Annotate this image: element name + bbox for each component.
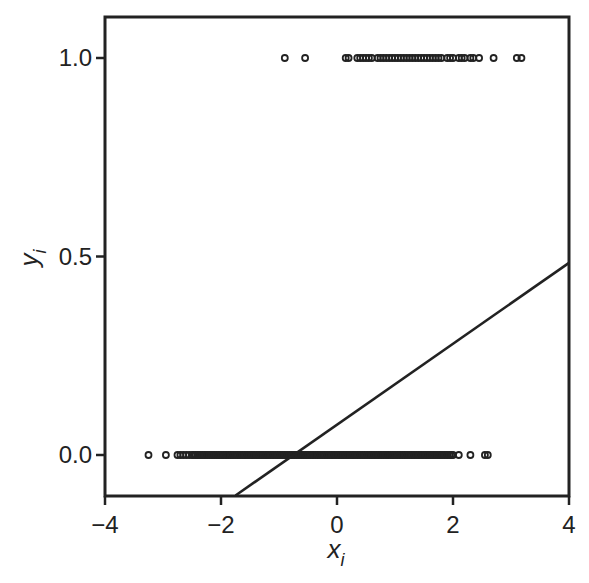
x-tick-label: 4 [562,511,575,538]
y-tick-label: 0.0 [59,441,92,468]
scatter-chart: −4−2024 0.00.51.0 xi yi [0,0,589,583]
fit-line [236,263,570,496]
y-tick-label: 0.5 [59,243,92,270]
x-axis-label: xi [326,534,346,570]
x-tick-label: −2 [207,511,234,538]
y-tick-label: 1.0 [59,44,92,71]
y-axis-ticks: 0.00.51.0 [59,44,105,468]
x-tick-label: −4 [91,511,118,538]
x-axis-ticks: −4−2024 [91,496,575,538]
y-axis-label: yi [14,249,50,269]
x-tick-label: 2 [446,511,459,538]
data-points [146,55,525,458]
